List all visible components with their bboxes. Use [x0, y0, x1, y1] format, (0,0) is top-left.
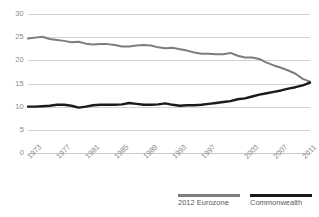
legend-label-eurozone: 2012 Eurozone	[178, 199, 240, 207]
legend-label-commonwealth: Commonwealth	[250, 199, 312, 207]
eurozone-series-line	[28, 37, 310, 82]
y-tick-label-25: 25	[2, 33, 24, 41]
x-axis: 1973197719811985198919931997200320072011	[28, 155, 310, 189]
commonwealth-series-line	[28, 83, 310, 108]
commonwealth-line-swatch	[250, 194, 312, 197]
line-chart: 051015202530 197319771981198519891993199…	[0, 0, 319, 217]
legend-item-eurozone: 2012 Eurozone	[178, 194, 240, 214]
y-tick-label-5: 5	[2, 126, 24, 134]
y-tick-label-20: 20	[2, 56, 24, 64]
y-tick-label-30: 30	[2, 10, 24, 18]
y-tick-label-10: 10	[2, 103, 24, 111]
plot-area	[28, 14, 310, 153]
y-tick-label-0: 0	[2, 149, 24, 157]
y-tick-label-15: 15	[2, 80, 24, 88]
series-container	[28, 14, 310, 153]
legend-item-commonwealth: Commonwealth	[250, 194, 312, 214]
chart-legend: 2012 Eurozone Commonwealth	[178, 194, 318, 214]
y-axis: 051015202530	[0, 14, 24, 153]
eurozone-line-swatch	[178, 194, 240, 197]
